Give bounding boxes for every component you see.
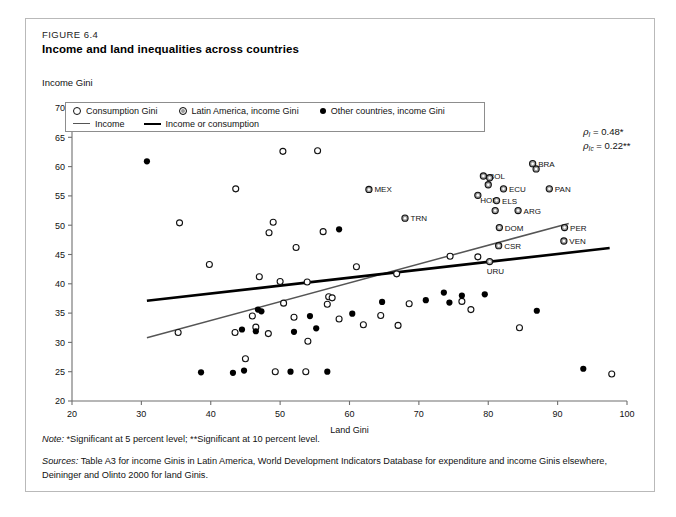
sources-line-1: Sources: Table A3 for income Ginis in La… [42,456,607,466]
thick-line-icon [144,123,161,125]
data-point-open [272,369,278,375]
x-tick-label: 40 [206,409,216,419]
data-point-latin-america-core [488,260,491,263]
data-point-open [336,316,342,322]
point-label-els: ELS [502,197,517,206]
data-point-open [304,279,310,285]
note-line: Note: *Significant at 5 percent level; *… [42,434,320,444]
y-tick-label: 20 [55,396,65,406]
legend-label-income-or-consumption-line: Income or consumption [166,119,260,129]
legend-label-income-line: Income [95,119,125,129]
data-point-solid [230,370,236,376]
correlation-annotation: ρI = 0.48* ρIc = 0.22** [583,125,630,153]
data-point-open [265,331,271,337]
data-point-solid [324,369,330,375]
data-point-open [516,325,522,331]
chart-canvas: 2025303540455055606570203040506070809010… [26,19,656,493]
data-point-solid [144,158,150,164]
data-point-open [291,314,297,320]
data-point-open [277,278,283,284]
data-point-latin-america-core [548,188,551,191]
data-point-latin-america-core [563,226,566,229]
data-point-open [468,307,474,313]
legend-item-income-or-consumption-line: Income or consumption [144,119,260,129]
data-point-latin-america-core [487,184,490,187]
data-point-solid [239,326,245,332]
data-point-open [305,338,311,344]
rho-income-consumption-subscript: Ic [589,145,594,152]
data-point-open [206,261,212,267]
data-point-latin-america-core [497,244,500,247]
data-point-solid [459,292,465,298]
point-label-bra: BRA [538,160,555,169]
x-tick-label: 30 [136,409,146,419]
data-point-open [475,254,481,260]
trendline-thin [147,223,569,337]
point-label-dom: DOM [505,224,524,233]
data-point-open [447,253,453,259]
rho-income-consumption-line: ρIc = 0.22** [583,139,630,153]
data-point-open [378,312,384,318]
data-point-latin-america-core [517,209,520,212]
data-point-open [177,220,183,226]
data-point-open [320,229,326,235]
legend-label-other-countries: Other countries, income Gini [331,106,445,116]
data-point-open [281,300,287,306]
data-point-open [266,230,272,236]
data-point-solid [441,289,447,295]
data-point-solid [482,291,488,297]
solid-circle-icon [320,108,326,114]
data-point-open [609,371,615,377]
rho-income-symbol: ρ [583,126,589,137]
figure-frame: FIGURE 6.4 Income and land inequalities … [25,18,655,492]
data-point-solid [258,308,264,314]
data-point-latin-america-core [495,199,498,202]
scatter-plot: 2025303540455055606570203040506070809010… [26,19,656,493]
y-tick-label: 65 [55,133,65,143]
legend-item-consumption-gini: Consumption Gini [73,106,158,116]
chart-legend: Consumption Gini Latin America, income G… [65,102,485,132]
data-point-open [293,244,299,250]
data-point-latin-america-core [482,175,485,178]
point-label-ecu: ECU [509,185,526,194]
y-tick-label: 40 [55,279,65,289]
data-point-solid [580,366,586,372]
data-point-solid [336,226,342,232]
data-point-solid [287,369,293,375]
point-label-mex: MEX [374,185,392,194]
data-point-solid [446,299,452,305]
sources-text-line2: Deininger and Olinto 2000 for land Ginis… [42,470,208,480]
point-label-pan: PAN [555,185,571,194]
rho-income-consumption-value: 0.22** [605,140,631,151]
point-label-per: PER [570,224,587,233]
legend-row-lines: Income Income or consumption [73,119,259,129]
data-point-open [280,148,286,154]
data-point-latin-america-core [488,176,491,179]
data-point-open [406,301,412,307]
y-tick-label: 30 [55,338,65,348]
data-point-latin-america-core [502,188,505,191]
data-point-solid [423,297,429,303]
data-point-open [249,313,255,319]
legend-item-other-countries: Other countries, income Gini [320,106,445,116]
data-point-open [256,274,262,280]
data-point-open [315,148,321,154]
rho-income-consumption-symbol: ρ [583,140,589,151]
legend-row-markers: Consumption Gini Latin America, income G… [73,106,445,116]
data-point-open [353,264,359,270]
data-point-open [232,329,238,335]
legend-item-income-line: Income [73,119,125,129]
data-point-solid [349,311,355,317]
open-circle-icon [73,107,81,115]
sources-line-2: Deininger and Olinto 2000 for land Ginis… [42,470,208,480]
note-text: *Significant at 5 percent level; **Signi… [67,434,320,444]
rho-income-consumption-equals: = [596,140,602,151]
data-point-solid [313,325,319,331]
note-label: Note: [42,434,64,444]
data-point-open [329,295,335,301]
y-tick-label: 25 [55,367,65,377]
x-tick-label: 60 [344,409,354,419]
data-point-open [233,186,239,192]
data-point-open [395,322,401,328]
point-label-csr: CSR [504,242,521,251]
